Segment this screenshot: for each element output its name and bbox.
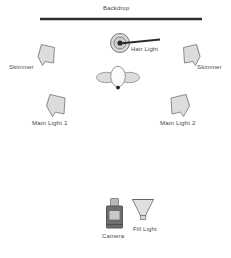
skimmer-left[interactable] <box>32 42 62 70</box>
main-light-1-label: Main Light 1 <box>32 119 68 127</box>
fill-light-label: Fill Light <box>133 225 157 233</box>
fill-light-icon <box>133 200 154 220</box>
lighting-setup-diagram: Backdrop Hair Light <box>0 0 231 258</box>
main-light-1[interactable] <box>42 91 74 119</box>
camera-label: Camera <box>102 232 124 240</box>
camera[interactable] <box>103 197 127 231</box>
subject-figure <box>96 62 140 96</box>
skimmer-left-label: Skimmer <box>9 63 34 71</box>
backdrop-label: Backdrop <box>103 4 130 12</box>
fill-light[interactable] <box>130 197 156 225</box>
main-light-icon <box>171 95 190 117</box>
main-light-2-label: Main Light 2 <box>160 119 196 127</box>
main-light-icon <box>47 95 66 117</box>
main-light-2[interactable] <box>163 91 195 119</box>
camera-icon <box>107 199 123 229</box>
skimmer-light-icon <box>38 45 55 66</box>
skimmer-right-label: Skimmer <box>197 63 222 71</box>
hair-light-label: Hair Light <box>131 45 158 53</box>
subject-overhead-icon <box>97 66 140 89</box>
